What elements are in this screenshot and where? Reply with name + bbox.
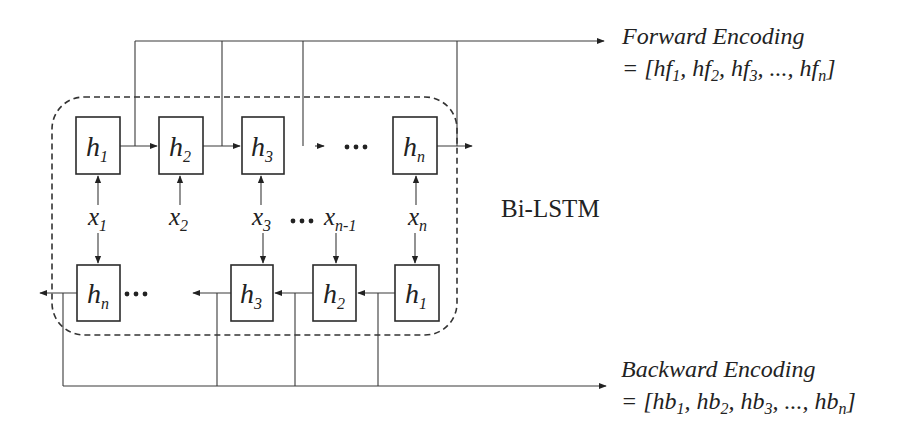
bi-lstm-diagram: h1 h2 h3 hn x1 x2 x3 xn-1 xn: [0, 0, 901, 431]
backward-ellipsis: [125, 292, 148, 297]
forward-cell-h3: h3: [242, 117, 284, 174]
input-x3: x3: [251, 203, 271, 234]
input-x1: x1: [87, 203, 107, 234]
forward-cell-h2: h2: [159, 117, 203, 174]
backward-cell-h1: h1: [395, 265, 439, 321]
forward-cell-hn: hn: [393, 117, 437, 174]
input-ellipsis: [291, 219, 314, 224]
svg-text:Forward Encoding: Forward Encoding: [621, 23, 804, 49]
input-xn: xn: [407, 203, 427, 234]
svg-text:= [hf1, hf2, hf3, ..., hfn]: = [hf1, hf2, hf3, ..., hfn]: [622, 55, 836, 84]
forward-ellipsis: [345, 145, 368, 150]
svg-text:= [hb1, hb2, hb3, ..., hbn]: = [hb1, hb2, hb3, ..., hbn]: [621, 388, 856, 417]
input-xn-1: xn-1: [323, 203, 356, 234]
svg-text:Backward Encoding: Backward Encoding: [621, 356, 815, 382]
forward-output-bus: [135, 41, 604, 146]
forward-encoding-label: Forward Encoding = [hf1, hf2, hf3, ..., …: [621, 23, 836, 84]
backward-cell-hn: hn: [77, 265, 120, 321]
backward-encoding-label: Backward Encoding = [hb1, hb2, hb3, ...,…: [621, 356, 856, 417]
input-x2: x2: [168, 203, 188, 234]
forward-cell-h1: h1: [76, 117, 120, 174]
bi-lstm-label: Bi-LSTM: [501, 195, 600, 222]
backward-cell-h3: h3: [231, 265, 273, 321]
backward-cell-h2: h2: [313, 265, 356, 321]
